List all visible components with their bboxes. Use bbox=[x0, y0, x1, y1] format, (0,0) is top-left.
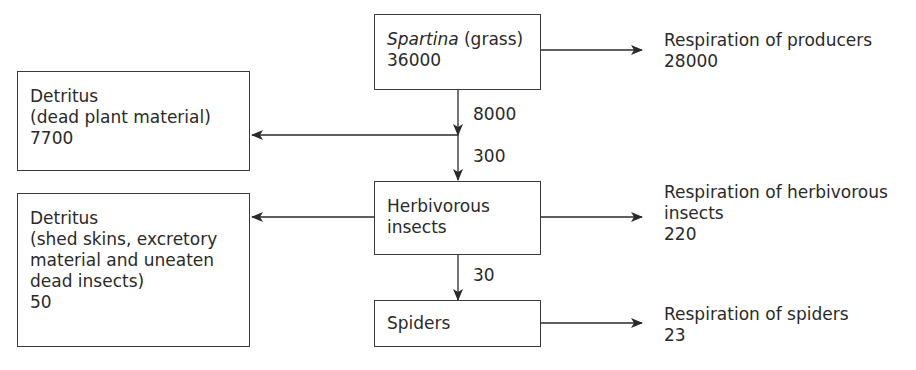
output-resp-spiders: Respiration of spiders 23 bbox=[664, 304, 849, 346]
resp-spiders-label: Respiration of spiders bbox=[664, 304, 849, 325]
flow-label-8000: 8000 bbox=[473, 104, 516, 125]
output-resp-producers: Respiration of producers 28000 bbox=[664, 30, 872, 72]
node-herbivores-line1: Herbivorous bbox=[387, 196, 528, 217]
node-spiders-name: Spiders bbox=[387, 313, 528, 334]
resp-spiders-value: 23 bbox=[664, 325, 849, 346]
node-spartina-name: Spartina (grass) bbox=[387, 29, 528, 50]
node-detritus-insects-title: Detritus bbox=[30, 208, 237, 229]
node-detritus-insects-desc2: material and uneaten bbox=[30, 250, 237, 271]
output-resp-herbivores: Respiration of herbivorous insects 220 bbox=[664, 182, 888, 245]
resp-herbivores-line2: insects bbox=[664, 203, 888, 224]
resp-herbivores-value: 220 bbox=[664, 224, 888, 245]
node-detritus-plant: Detritus (dead plant material) 7700 bbox=[17, 71, 250, 171]
node-detritus-plant-desc: (dead plant material) bbox=[30, 107, 237, 128]
resp-producers-label: Respiration of producers bbox=[664, 30, 872, 51]
node-detritus-insects-value: 50 bbox=[30, 292, 237, 313]
node-detritus-insects: Detritus (shed skins, excretory material… bbox=[17, 193, 250, 347]
node-detritus-insects-desc1: (shed skins, excretory bbox=[30, 229, 237, 250]
resp-herbivores-line1: Respiration of herbivorous bbox=[664, 182, 888, 203]
node-spartina: Spartina (grass) 36000 bbox=[374, 14, 541, 90]
node-detritus-plant-value: 7700 bbox=[30, 128, 237, 149]
node-herbivorous-insects: Herbivorous insects bbox=[374, 181, 541, 255]
flow-label-30: 30 bbox=[473, 265, 495, 286]
node-spartina-value: 36000 bbox=[387, 50, 528, 71]
node-spiders: Spiders bbox=[374, 300, 541, 347]
node-herbivores-line2: insects bbox=[387, 217, 528, 238]
node-detritus-insects-desc3: dead insects) bbox=[30, 271, 237, 292]
resp-producers-value: 28000 bbox=[664, 51, 872, 72]
node-detritus-plant-title: Detritus bbox=[30, 86, 237, 107]
flow-label-300: 300 bbox=[473, 146, 505, 167]
